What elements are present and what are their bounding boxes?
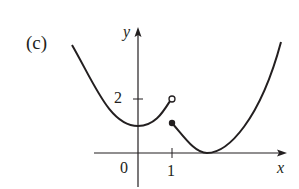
graph-canvas bbox=[0, 0, 299, 189]
filled-dot-endpoint bbox=[169, 120, 175, 126]
left-curve bbox=[72, 45, 170, 126]
right-curve bbox=[172, 42, 281, 153]
open-circle-endpoint bbox=[169, 96, 175, 102]
